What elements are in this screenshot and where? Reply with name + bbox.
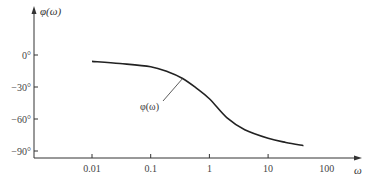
y-tick-label-3: −90° [11,146,31,157]
x-axis-label: ω [354,164,362,176]
y-tick-label-1: −30° [11,82,31,93]
x-tick-label-2: 1 [207,163,212,174]
phase-chart: φ(ω) ω 0.010.1110100 0°−30°−60°−90° φ(ω) [0,0,369,189]
y-axis-label: φ(ω) [40,5,62,18]
x-tick-label-1: 0.1 [144,163,157,174]
x-axis-arrow [354,156,362,161]
series-line-phase [92,61,303,145]
y-tick-label-2: −60° [11,114,31,125]
x-tick-label-3: 10 [263,163,273,174]
annotation-leader-line [163,78,183,101]
x-tick-label-4: 100 [319,163,334,174]
y-axis-arrow [32,6,37,14]
annotation-label: φ(ω) [140,101,159,113]
x-ticks: 0.010.1110100 [83,154,334,174]
axes: φ(ω) ω [32,5,363,176]
x-tick-label-0: 0.01 [83,163,101,174]
y-tick-label-0: 0° [22,50,31,61]
